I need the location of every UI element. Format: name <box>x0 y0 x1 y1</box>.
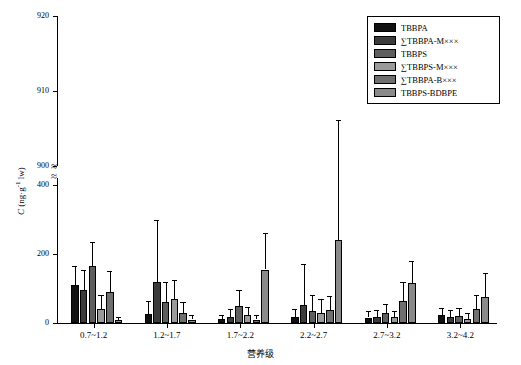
error-cap-2-5 <box>263 233 268 234</box>
y-400-label: 400 <box>21 180 49 189</box>
bar-0-1 <box>80 290 88 323</box>
error-cap-2-1 <box>228 309 233 310</box>
error-bar-5-2 <box>459 308 460 317</box>
bar-1-4 <box>179 313 187 323</box>
y-200-tick <box>53 254 57 255</box>
error-cap-1-2 <box>163 282 168 283</box>
error-bar-2-5 <box>265 233 266 269</box>
error-bar-5-5 <box>485 273 486 297</box>
bar-0-3 <box>97 309 105 323</box>
legend-item-5: TBBPS-BDBPE <box>374 86 493 99</box>
legend-item-4: ∑TBBPA-B××× <box>374 73 493 86</box>
y-200-label: 200 <box>21 249 49 258</box>
error-cap-3-4 <box>327 296 332 297</box>
y-axis-lower-line <box>57 178 58 324</box>
error-cap-3-1 <box>301 264 306 265</box>
bar-0-2 <box>89 266 97 323</box>
bar-4-4 <box>399 301 407 323</box>
error-cap-5-2 <box>456 308 461 309</box>
error-cap-2-3 <box>245 307 250 308</box>
error-bar-3-0 <box>295 309 296 317</box>
error-cap-0-1 <box>81 270 86 271</box>
error-cap-3-3 <box>318 299 323 300</box>
y-910-tick <box>53 91 57 92</box>
error-cap-0-3 <box>98 295 103 296</box>
bar-2-4 <box>253 320 261 323</box>
error-cap-3-2 <box>310 295 315 296</box>
bar-5-4 <box>473 309 481 323</box>
error-bar-4-4 <box>403 282 404 301</box>
error-bar-0-3 <box>101 295 102 309</box>
y-400-tick <box>53 185 57 186</box>
bar-1-0 <box>145 314 153 323</box>
bar-2-3 <box>244 315 252 323</box>
error-cap-3-5 <box>336 120 341 121</box>
legend-label-1: ∑TBBPA-M××× <box>401 36 458 46</box>
error-cap-2-0 <box>219 315 224 316</box>
error-bar-5-4 <box>476 295 477 309</box>
error-cap-1-4 <box>180 302 185 303</box>
x-label-1: 1.2~1.7 <box>130 330 203 340</box>
x-tick-0 <box>94 324 95 328</box>
bar-4-3 <box>391 317 399 323</box>
y-axis-title-unit: (ng·g <box>16 187 26 209</box>
error-bar-1-4 <box>183 302 184 312</box>
error-bar-0-2 <box>92 242 93 266</box>
x-tick-3 <box>314 324 315 328</box>
bar-5-2 <box>455 316 463 323</box>
error-cap-4-4 <box>400 282 405 283</box>
error-bar-5-0 <box>442 308 443 316</box>
error-cap-4-2 <box>383 304 388 305</box>
legend-label-0: TBBPA <box>401 23 428 33</box>
error-bar-0-4 <box>110 271 111 292</box>
bar-5-3 <box>464 319 472 323</box>
chart-root: C (ng·g-1 lw) 营养级 ≈ ≈ 9209109004002000 0… <box>0 0 521 365</box>
bar-3-3 <box>317 313 325 323</box>
y-0-label: 0 <box>21 318 49 327</box>
error-cap-5-3 <box>465 313 470 314</box>
error-bar-3-3 <box>321 299 322 313</box>
error-bar-1-3 <box>174 280 175 299</box>
axis-break-lower-icon: ≈ <box>51 173 57 180</box>
error-cap-4-5 <box>409 261 414 262</box>
error-cap-2-4 <box>254 315 259 316</box>
bar-4-2 <box>382 313 390 323</box>
error-bar-2-1 <box>230 309 231 317</box>
bar-1-5 <box>188 320 196 323</box>
bar-3-4 <box>326 310 334 323</box>
bar-1-3 <box>171 299 179 323</box>
legend-label-2: TBBPS <box>401 49 427 59</box>
x-label-4: 2.7~3.2 <box>350 330 423 340</box>
error-cap-0-5 <box>116 317 121 318</box>
y-0-tick <box>53 323 57 324</box>
legend-item-2: TBBPS <box>374 47 493 60</box>
error-cap-2-2 <box>236 290 241 291</box>
y-900-tick <box>53 166 57 167</box>
x-tick-4 <box>387 324 388 328</box>
error-cap-4-3 <box>392 311 397 312</box>
error-bar-0-0 <box>75 266 76 285</box>
error-cap-4-1 <box>374 310 379 311</box>
error-cap-4-0 <box>366 311 371 312</box>
error-cap-1-5 <box>189 315 194 316</box>
bar-0-5 <box>115 320 123 323</box>
error-cap-5-0 <box>439 308 444 309</box>
error-cap-1-1 <box>154 220 159 221</box>
x-label-0: 0.7~1.2 <box>57 330 130 340</box>
y-920-tick <box>53 16 57 17</box>
bar-0-0 <box>71 285 79 323</box>
error-cap-1-0 <box>146 301 151 302</box>
legend-swatch-1 <box>374 36 396 45</box>
error-bar-3-4 <box>330 296 331 310</box>
legend-swatch-3 <box>374 62 396 71</box>
error-cap-5-5 <box>483 273 488 274</box>
error-bar-4-5 <box>412 261 413 283</box>
x-axis-line <box>57 323 497 324</box>
x-label-5: 3.2~4.2 <box>424 330 497 340</box>
x-label-2: 1.7~2.2 <box>204 330 277 340</box>
error-bar-1-2 <box>166 282 167 303</box>
bar-5-1 <box>447 317 455 323</box>
error-bar-4-1 <box>377 310 378 317</box>
error-bar-1-0 <box>148 301 149 315</box>
bar-2-5 <box>261 270 269 324</box>
